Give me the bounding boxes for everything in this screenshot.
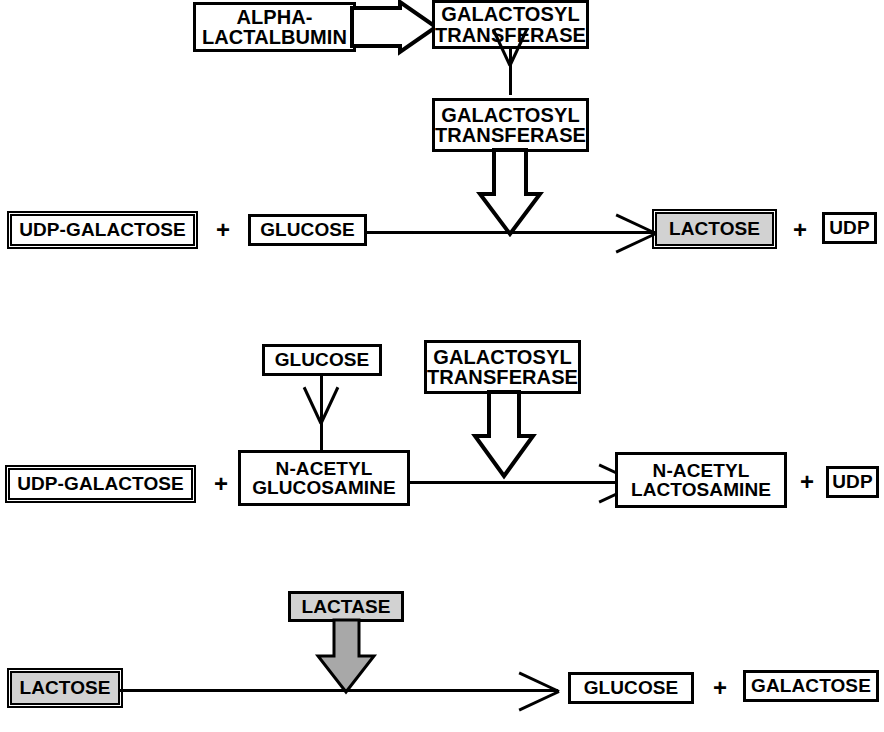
reaction-arrow-line-2 [410, 481, 638, 484]
lactose-box-reaction1: LACTOSE [655, 212, 774, 246]
lactose-box-reaction3: LACTOSE [10, 671, 120, 705]
galactose-box-reaction3: GALACTOSE [743, 670, 879, 702]
lactase-box: LACTASE [288, 591, 404, 622]
shaded-down-arrow-lactase-icon [311, 620, 381, 692]
glucose-box-reaction2-modifier: GLUCOSE [262, 344, 382, 376]
plus-sign-reaction3-products: + [713, 676, 727, 700]
galactosyl-transferase-box-bottom: GALACTOSYL TRANSFERASE [432, 98, 589, 152]
hollow-down-arrow-enzyme-icon-2 [468, 392, 540, 476]
plus-sign-reaction2-products: + [800, 470, 814, 494]
reaction-arrow-line-1 [367, 231, 655, 234]
udp-galactose-box-reaction1: UDP-GALACTOSE [10, 214, 195, 246]
galactosyl-transferase-box-reaction2: GALACTOSYL TRANSFERASE [424, 340, 581, 394]
arrowhead-right-open-icon-3 [559, 690, 560, 691]
plus-sign-reaction1-substrates: + [216, 218, 230, 242]
udp-galactose-box-reaction2: UDP-GALACTOSE [8, 468, 193, 500]
hollow-right-arrow-activation-icon [352, 2, 436, 52]
plus-sign-reaction1-products: + [793, 218, 807, 242]
hollow-down-arrow-enzyme-icon [472, 150, 548, 234]
pathway-diagram: ALPHA- LACTALBUMIN GALACTOSYL TRANSFERAS… [0, 0, 884, 732]
reaction-arrow-line-3 [120, 689, 558, 692]
udp-box-reaction1: UDP [822, 212, 877, 244]
plus-sign-reaction2-substrates: + [214, 472, 228, 496]
n-acetyl-lactosamine-box: N-ACETYL LACTOSAMINE [615, 452, 787, 508]
arrowhead-down-open-icon [510, 64, 511, 65]
arrowhead-down-open-icon-2 [321, 422, 322, 423]
udp-box-reaction2: UDP [826, 466, 879, 498]
galactosyl-transferase-box-top: GALACTOSYL TRANSFERASE [432, 0, 589, 49]
glucose-box-reaction1: GLUCOSE [248, 214, 367, 246]
alpha-lactalbumin-box: ALPHA- LACTALBUMIN [193, 2, 356, 52]
n-acetyl-glucosamine-box: N-ACETYL GLUCOSAMINE [238, 450, 410, 506]
glucose-box-reaction3: GLUCOSE [568, 672, 694, 704]
